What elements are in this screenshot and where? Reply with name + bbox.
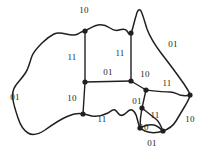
label-western-coast: 01: [10, 93, 19, 102]
label-east-coast-lower: 10: [185, 115, 194, 124]
label-victoria-lower: 10: [139, 123, 148, 132]
node-south-west: [80, 111, 85, 116]
label-northern-interior: 11: [115, 49, 124, 58]
label-victoria-upper: 11: [150, 111, 159, 120]
node-nw-top: [82, 28, 87, 33]
label-northern-top: 10: [79, 6, 88, 15]
map-vector-canvas: [0, 0, 207, 156]
label-new-south-wales: 11: [162, 79, 171, 88]
label-center-right: 10: [140, 70, 149, 79]
label-south-coast: 11: [97, 115, 106, 124]
label-tasmania: 01: [147, 139, 156, 148]
label-western-interior: 11: [67, 53, 76, 62]
border-center-to-triangle: [131, 81, 146, 90]
border-southaustralia-east-vertical: [142, 90, 146, 108]
node-vic-south: [160, 128, 165, 133]
node-center-east: [128, 78, 133, 83]
node-center: [82, 79, 87, 84]
border-center-south-vertical: [83, 82, 85, 114]
node-ne-top: [128, 30, 133, 35]
border-triangle-east: [146, 90, 190, 96]
node-tri-east: [143, 87, 148, 92]
node-far-east: [187, 92, 192, 97]
label-south-west-interior: 10: [67, 94, 76, 103]
label-queensland-coast: 01: [168, 40, 177, 49]
node-vic-north: [139, 105, 144, 110]
label-center-horizontal: 01: [103, 68, 112, 77]
border-center-horizontal: [85, 81, 131, 82]
label-south-australia: 01: [132, 97, 141, 106]
australia-region-map: 101111010110110110011111101001: [0, 0, 207, 156]
